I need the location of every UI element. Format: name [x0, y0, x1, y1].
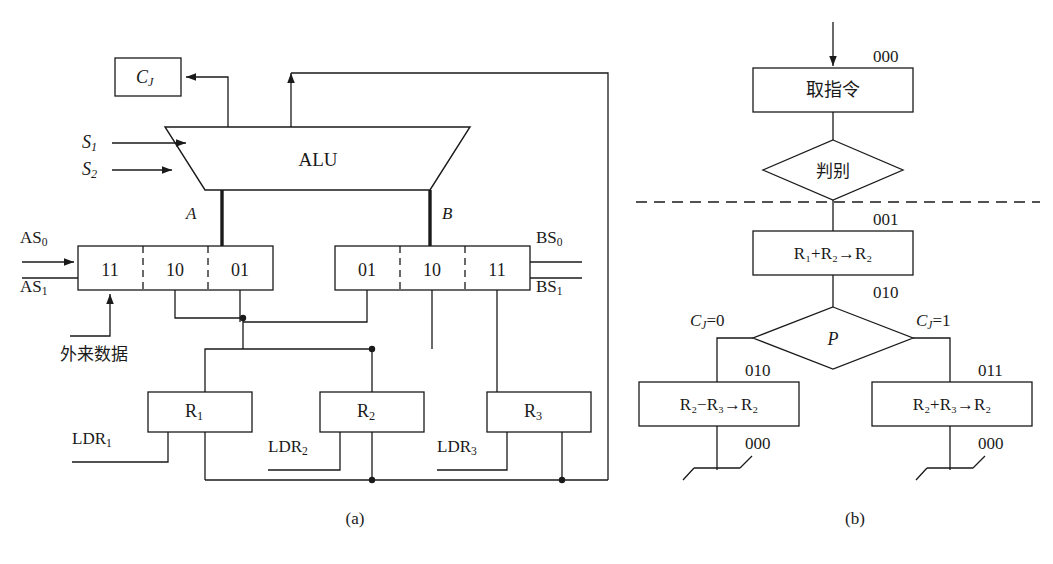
flow-branch-right-wire — [913, 338, 950, 382]
figure-root: 取指令 判别 R₁+R₂→R₂ P R₂−R₃→R₂ R₂+R₃→R₂ 000 … — [0, 0, 1053, 564]
flow-text-ptest: P — [827, 329, 839, 349]
flow-addr-add12-top: 001 — [873, 210, 899, 229]
junction-dot — [369, 477, 375, 483]
junction-dot — [559, 477, 565, 483]
external-data-label: 外来数据 — [60, 345, 128, 364]
bus-a-label: A — [186, 205, 196, 222]
load-signal-ldr2-label: LDR2 — [268, 438, 308, 458]
r1-to-mux-bus — [205, 349, 372, 392]
caption-a: (a) — [346, 509, 365, 528]
mux-right-cell-0: 01 — [358, 260, 376, 280]
register-r1-label: R1 — [185, 402, 203, 423]
flow-branch-left-label: CJ=0 — [690, 312, 725, 332]
flow-text-add12: R₁+R₂→R₂ — [794, 244, 872, 263]
flow-text-fetch: 取指令 — [806, 80, 860, 100]
external-data-wire — [70, 294, 110, 336]
flow-addr-sub23-bottom: 000 — [745, 434, 771, 453]
load-signal-ldr1-label: LDR1 — [72, 430, 112, 450]
control-input-s2-label: S2 — [82, 160, 97, 181]
cj-feedback-wire — [186, 77, 228, 127]
junction-dot — [240, 315, 246, 321]
mux-left-cell-1: 10 — [166, 260, 184, 280]
result-bus-right — [291, 73, 608, 480]
flow-text-sub23: R₂−R₃→R₂ — [680, 395, 758, 414]
flow-addr-add23-bottom: 000 — [978, 434, 1004, 453]
register-r3-label: R3 — [524, 402, 542, 423]
alu-label: ALU — [298, 149, 337, 170]
bus-b-label: B — [442, 205, 452, 222]
mux-left-cell-2: 01 — [231, 260, 249, 280]
flow-text-discriminate: 判别 — [816, 162, 850, 181]
cj-box-label: CJ — [136, 68, 153, 89]
flow-branch-right-label: CJ=1 — [916, 312, 951, 332]
mux-right-cell-1: 10 — [423, 260, 441, 280]
mux-right-select-bs1-label: BS1 — [536, 278, 563, 298]
diagram-canvas: 取指令 判别 R₁+R₂→R₂ P R₂−R₃→R₂ R₂+R₃→R₂ 000 … — [0, 0, 1053, 564]
mux-right-cell-2: 11 — [488, 260, 505, 280]
mux-left-cell-0: 11 — [101, 260, 118, 280]
register-r2-label: R2 — [357, 402, 375, 423]
mux-left-select-as0-label: AS0 — [20, 229, 48, 249]
mux-left-select-as1-label: AS1 — [20, 278, 48, 298]
muxleft-10-out — [175, 290, 243, 318]
junction-dot — [369, 346, 375, 352]
mux-right-select-bs0-label: BS0 — [536, 229, 563, 249]
control-input-s1-label: S1 — [82, 133, 97, 154]
flow-addr-sub23-top: 010 — [745, 361, 771, 380]
caption-b: (b) — [845, 509, 865, 528]
flow-text-add23: R₂+R₃→R₂ — [913, 395, 991, 414]
flow-addr-fetch-top: 000 — [873, 47, 899, 66]
muxright-01-out — [243, 290, 367, 322]
flow-addr-add12-bottom: 010 — [873, 283, 899, 302]
flow-addr-add23-top: 011 — [978, 361, 1003, 380]
load-signal-ldr3-label: LDR3 — [437, 438, 477, 458]
